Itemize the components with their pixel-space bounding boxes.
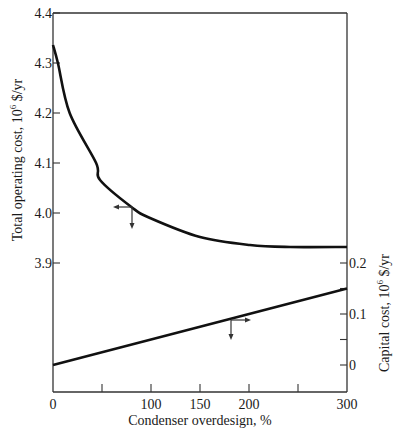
left-y-tick-label: 4.0 <box>35 206 53 221</box>
arrow-down-icon <box>130 223 135 229</box>
capital-cost-line <box>53 289 347 366</box>
arrow-right-icon <box>245 318 251 323</box>
x-axis-title: Condenser overdesign, % <box>128 413 272 428</box>
x-tick-label: 150 <box>190 397 211 412</box>
x-tick-label: 100 <box>141 397 162 412</box>
right-y-tick-label: 0.2 <box>349 256 367 271</box>
x-tick-label: 200 <box>239 397 260 412</box>
x-axis-ticks: 0100150200300 <box>50 384 358 412</box>
operating-cost-curve <box>53 45 347 247</box>
left-y-tick-label: 4.4 <box>35 6 53 21</box>
left-y-tick-label: 4.1 <box>35 156 53 171</box>
right-y-axis-ticks: 0.20.10 <box>340 256 367 373</box>
x-tick-label: 300 <box>337 397 358 412</box>
left-y-tick-label: 4.2 <box>35 106 53 121</box>
arrow-left-icon <box>113 205 119 210</box>
left-y-tick-label: 4.3 <box>35 56 53 71</box>
left-y-axis-ticks: 4.44.34.24.14.03.9 <box>35 6 61 271</box>
capital-cost-right-axis-arrow <box>229 318 252 341</box>
left-y-tick-label: 3.9 <box>35 256 53 271</box>
right-y-tick-label: 0 <box>349 358 356 373</box>
left-y-axis-title: Total operating cost, 106 $/yr <box>8 78 25 241</box>
right-y-axis-title: Capital cost, 106 $/yr <box>375 254 392 372</box>
plot-frame <box>53 13 347 392</box>
x-tick-label: 0 <box>50 397 57 412</box>
chart-canvas: 0100150200300 4.44.34.24.14.03.9 0.20.10… <box>0 0 401 434</box>
right-y-tick-label: 0.1 <box>349 307 367 322</box>
arrow-down-icon <box>229 334 234 340</box>
